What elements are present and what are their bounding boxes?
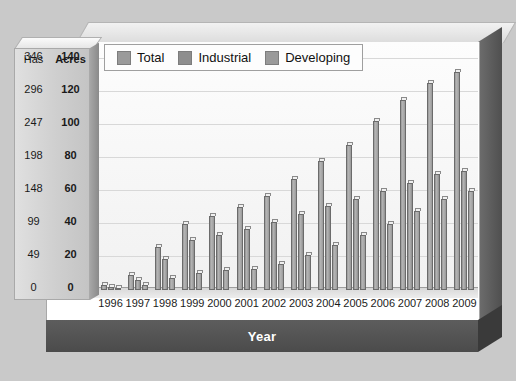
bar-face xyxy=(454,72,460,290)
bar[interactable] xyxy=(298,214,304,290)
bar-top-cap xyxy=(319,158,325,161)
bar[interactable] xyxy=(434,174,440,290)
y-axis-tick-has: 296 xyxy=(15,83,52,95)
bar[interactable] xyxy=(115,288,121,290)
bar[interactable] xyxy=(189,240,195,290)
bar[interactable] xyxy=(216,235,222,290)
bar-face xyxy=(461,171,467,290)
bar-face xyxy=(216,235,222,290)
bar-face xyxy=(162,259,168,290)
bar-top-cap xyxy=(415,208,421,211)
bar-top-cap xyxy=(354,196,360,199)
bar[interactable] xyxy=(101,285,107,290)
bar-face xyxy=(189,240,195,290)
legend-swatch-icon xyxy=(265,51,279,65)
bar[interactable] xyxy=(182,224,188,290)
y-axis-tick-has: 148 xyxy=(15,182,52,194)
bar-face xyxy=(298,214,304,290)
bar[interactable] xyxy=(468,191,474,290)
bar[interactable] xyxy=(400,100,406,290)
legend-item[interactable]: Industrial xyxy=(178,50,251,65)
bar-top-cap xyxy=(163,256,169,259)
bar-face xyxy=(155,247,161,290)
bar[interactable] xyxy=(244,229,250,290)
y-axis-tick-acres: 20 xyxy=(52,248,89,260)
bar[interactable] xyxy=(332,245,338,290)
bar[interactable] xyxy=(407,183,413,290)
bar[interactable] xyxy=(353,199,359,290)
bar-top-cap xyxy=(210,213,216,216)
bar-face xyxy=(305,255,311,290)
bar-group xyxy=(396,42,423,290)
bar-face xyxy=(264,196,270,290)
bar[interactable] xyxy=(373,121,379,290)
bar[interactable] xyxy=(237,207,243,290)
bar[interactable] xyxy=(346,145,352,290)
legend-item[interactable]: Total xyxy=(117,50,164,65)
bar[interactable] xyxy=(454,72,460,290)
bar-face xyxy=(407,183,413,290)
bar[interactable] xyxy=(223,270,229,290)
bar[interactable] xyxy=(305,255,311,290)
bar[interactable] xyxy=(387,224,393,290)
bar-top-cap xyxy=(265,193,271,196)
y-axis-tick-has: 99 xyxy=(15,215,52,227)
bar[interactable] xyxy=(318,161,324,290)
bar[interactable] xyxy=(360,235,366,290)
legend-item[interactable]: Developing xyxy=(265,50,350,65)
bar-top-cap xyxy=(401,97,407,100)
y-axis-tick-row: 296120 xyxy=(15,82,89,96)
bar-top-cap xyxy=(428,80,434,83)
y-axis-tick-acres: 0 xyxy=(52,281,89,293)
y-axis-tick-acres: 140 xyxy=(52,50,89,62)
bar[interactable] xyxy=(135,280,141,290)
bar-face xyxy=(223,270,229,290)
bar[interactable] xyxy=(169,278,175,290)
bar[interactable] xyxy=(251,269,257,290)
bar-top-cap xyxy=(455,69,461,72)
bar[interactable] xyxy=(108,287,114,290)
bar-top-cap xyxy=(306,252,312,255)
bar[interactable] xyxy=(162,259,168,290)
bar[interactable] xyxy=(142,285,148,290)
bar[interactable] xyxy=(264,196,270,290)
bar-top-cap xyxy=(347,142,353,145)
bar[interactable] xyxy=(209,216,215,290)
bar-group xyxy=(342,42,369,290)
bar[interactable] xyxy=(414,211,420,290)
x-axis-title-band: Year xyxy=(46,320,478,352)
bar[interactable] xyxy=(196,273,202,290)
bar[interactable] xyxy=(291,179,297,290)
bar-face xyxy=(387,224,393,290)
y-axis-tick-row: 00 xyxy=(15,280,89,294)
bar[interactable] xyxy=(271,222,277,290)
bar-face xyxy=(468,191,474,290)
bar[interactable] xyxy=(427,83,433,290)
bar-face xyxy=(101,285,107,290)
bar[interactable] xyxy=(325,206,331,290)
y-axis-tick-acres: 60 xyxy=(52,182,89,194)
x-axis-title: Year xyxy=(248,329,277,344)
bar[interactable] xyxy=(461,171,467,290)
bar[interactable] xyxy=(278,264,284,290)
bar[interactable] xyxy=(380,191,386,290)
x-axis-tick-label: 1998 xyxy=(151,297,178,315)
bar[interactable] xyxy=(128,275,134,290)
bar-face xyxy=(360,235,366,290)
bar-top-cap xyxy=(183,221,189,224)
bar-face xyxy=(196,273,202,290)
legend-label: Developing xyxy=(285,50,350,65)
bar-face xyxy=(291,179,297,290)
bar-group xyxy=(451,42,478,290)
bar[interactable] xyxy=(441,199,447,290)
y-axis-tick-has: 0 xyxy=(15,281,52,293)
bar-face xyxy=(318,161,324,290)
bar-face xyxy=(271,222,277,290)
bar[interactable] xyxy=(155,247,161,290)
bar-top-cap xyxy=(292,176,298,179)
y-axis-tick-has: 198 xyxy=(15,149,52,161)
bar-face xyxy=(353,199,359,290)
bar-top-cap xyxy=(442,196,448,199)
bar-group xyxy=(369,42,396,290)
